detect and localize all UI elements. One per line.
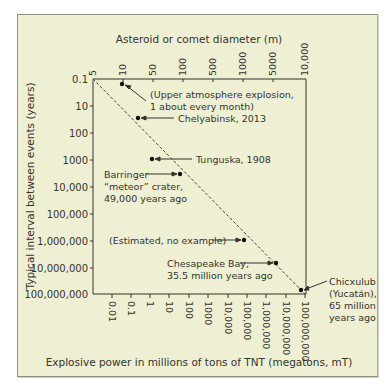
top-axis-title: Asteroid or comet diameter (m) — [116, 33, 282, 45]
x-tick-label: 10 — [164, 301, 175, 313]
point-barringer — [178, 172, 182, 176]
left-axis-title: Typical interval between events (years) — [24, 83, 36, 291]
point-chelyabinsk — [136, 116, 140, 120]
bottom-axis-labels: 0.01 0.1 1 10 100 1000 10,000 100,000 1,… — [107, 301, 311, 361]
top-tick-label: 5 — [87, 70, 98, 76]
impact-frequency-chart: Asteroid or comet diameter (m) Explosive… — [0, 0, 390, 389]
x-tick-label: 1000 — [203, 301, 214, 325]
annotation-barringer-line3: 49,000 years ago — [104, 193, 187, 204]
annotations: (Upper atmosphere explosion, 1 about eve… — [104, 89, 377, 323]
annotation-upper-atmosphere-line2: 1 about every month) — [150, 101, 254, 112]
x-tick-label: 10,000,000 — [281, 301, 292, 355]
y-tick-label: 10,000 — [53, 182, 88, 193]
annotation-barringer-line2: “meteor” crater, — [104, 181, 183, 192]
top-axis-labels: 5 10 50 100 500 1000 5000 10,000 — [87, 43, 310, 76]
annotation-chicxulub-line3: 65 million — [329, 300, 376, 311]
y-tick-label: 0.1 — [72, 74, 88, 85]
annotation-chelyabinsk: Chelyabinsk, 2013 — [178, 113, 266, 124]
annotation-chesapeake-line2: 35.5 million years ago — [167, 270, 273, 281]
x-tick-label: 0.01 — [107, 301, 118, 322]
annotation-chicxulub-line4: years ago — [329, 312, 376, 323]
x-tick-label: 1 — [145, 301, 156, 307]
bottom-axis-ticks — [112, 294, 305, 298]
y-tick-label: 100 — [69, 128, 88, 139]
y-tick-label: 100,000 — [47, 209, 88, 220]
annotation-estimated: (Estimated, no example) — [109, 235, 226, 246]
top-tick-label: 5000 — [267, 52, 278, 76]
point-chesapeake — [274, 261, 278, 265]
annotation-chesapeake: Chesapeake Bay, — [167, 258, 249, 269]
y-tick-label: 1,000,000 — [37, 236, 88, 247]
top-tick-label: 10,000 — [299, 43, 310, 76]
x-tick-label: 100 — [184, 301, 195, 319]
x-tick-label: 1,000,000 — [261, 301, 272, 349]
top-tick-label: 1000 — [237, 52, 248, 76]
x-tick-label: 100,000 — [242, 301, 253, 340]
top-tick-label: 500 — [207, 58, 218, 76]
annotation-chicxulub: Chicxulub — [329, 276, 376, 287]
point-tunguska — [150, 157, 154, 161]
point-upper-atmosphere — [120, 82, 124, 86]
y-tick-label: 10,000,000 — [31, 263, 88, 274]
x-tick-label: 10,000 — [223, 301, 234, 334]
annotation-barringer: Barringer — [104, 169, 149, 180]
x-tick-label: 100,000,000 — [300, 301, 311, 361]
point-chicxulub — [299, 288, 303, 292]
annotation-upper-atmosphere: (Upper atmosphere explosion, — [150, 89, 294, 100]
y-tick-label: 100,000,000 — [24, 289, 88, 300]
annotation-chicxulub-line2: (Yucatán), — [329, 288, 377, 299]
y-tick-label: 1000 — [63, 155, 88, 166]
top-tick-label: 100 — [177, 58, 188, 76]
top-tick-label: 10 — [117, 64, 128, 76]
y-tick-label: 10 — [75, 101, 88, 112]
top-tick-label: 50 — [147, 64, 158, 76]
x-tick-label: 0.1 — [126, 301, 137, 316]
annotation-tunguska: Tunguska, 1908 — [195, 154, 271, 165]
point-estimated — [242, 238, 246, 242]
